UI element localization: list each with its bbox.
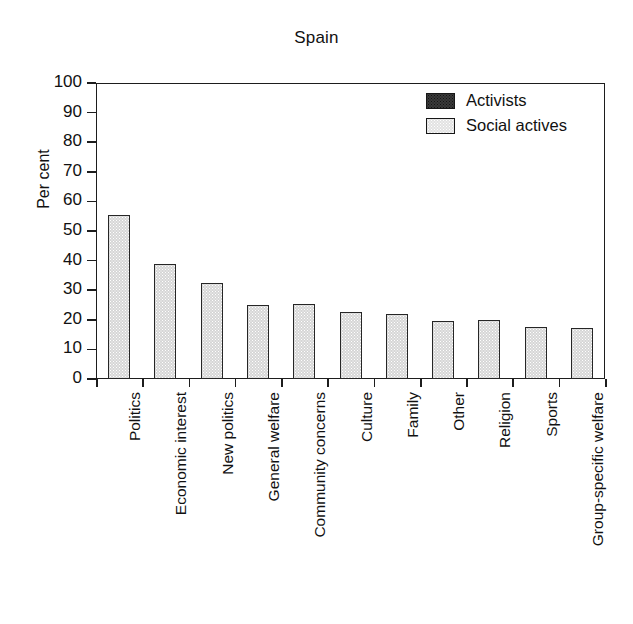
y-tick-label: 0 [73, 368, 82, 388]
legend-item-social-actives: Social actives [422, 113, 598, 138]
bar [478, 320, 500, 379]
x-tick-label: Sports [543, 392, 561, 437]
x-tick-label: Politics [126, 392, 144, 441]
x-tick-label: Economic interest [172, 392, 190, 515]
y-tick-mark [87, 112, 96, 114]
y-tick-label: 40 [63, 250, 82, 270]
y-tick-label: 90 [63, 102, 82, 122]
x-tick-mark [466, 379, 468, 387]
y-tick-mark [87, 260, 96, 262]
bar [247, 305, 269, 379]
bar [525, 327, 547, 379]
y-tick-label: 20 [63, 309, 82, 329]
x-tick-mark [605, 379, 607, 387]
x-tick-mark [420, 379, 422, 387]
x-tick-label: New politics [219, 392, 237, 475]
x-tick-label: Family [404, 392, 422, 438]
x-tick-mark [235, 379, 237, 387]
legend-label-social-actives: Social actives [466, 116, 567, 135]
legend-swatch-icon-social-actives [426, 118, 455, 134]
y-tick-label: 100 [54, 72, 82, 92]
chart-title: Spain [0, 28, 633, 48]
x-tick-label: Community concerns [311, 392, 329, 538]
chart-figure: Spain Per cent 0102030405060708090100 Po… [0, 0, 633, 624]
x-tick-mark [142, 379, 144, 387]
bar [432, 321, 454, 379]
x-tick-mark [96, 379, 98, 387]
bar [571, 328, 593, 379]
x-tick-mark [327, 379, 329, 387]
x-tick-mark [559, 379, 561, 387]
y-tick-mark [87, 82, 96, 84]
y-tick-label: 70 [63, 161, 82, 181]
y-tick-mark [87, 289, 96, 291]
legend-label-activists: Activists [466, 91, 527, 110]
x-tick-label: Religion [496, 392, 514, 448]
x-tick-label: Culture [358, 392, 376, 442]
y-tick-label: 30 [63, 279, 82, 299]
legend-item-activists: Activists [422, 88, 598, 113]
y-tick-mark [87, 141, 96, 143]
x-tick-mark [189, 379, 191, 387]
y-tick-mark [87, 171, 96, 173]
y-tick-mark [87, 201, 96, 203]
legend-swatch-icon-activists [426, 93, 455, 109]
y-tick-mark [87, 349, 96, 351]
bar [201, 283, 223, 379]
y-tick-label: 10 [63, 338, 82, 358]
y-tick-label: 80 [63, 131, 82, 151]
y-tick-label: 60 [63, 190, 82, 210]
y-tick-label: 50 [63, 220, 82, 240]
x-tick-mark [512, 379, 514, 387]
bar [154, 264, 176, 379]
y-tick-mark [87, 230, 96, 232]
x-tick-label: General welfare [265, 392, 283, 501]
y-tick-mark [87, 319, 96, 321]
x-tick-mark [281, 379, 283, 387]
x-tick-label: Other [450, 392, 468, 431]
y-tick-mark [87, 378, 96, 380]
bar [108, 215, 130, 379]
bar [340, 312, 362, 379]
x-tick-label: Group-specific welfare [589, 392, 607, 546]
chart-legend: Activists Social actives [422, 86, 598, 142]
x-tick-mark [374, 379, 376, 387]
bar [293, 304, 315, 379]
y-axis-label: Per cent [35, 119, 53, 239]
bar [386, 314, 408, 379]
